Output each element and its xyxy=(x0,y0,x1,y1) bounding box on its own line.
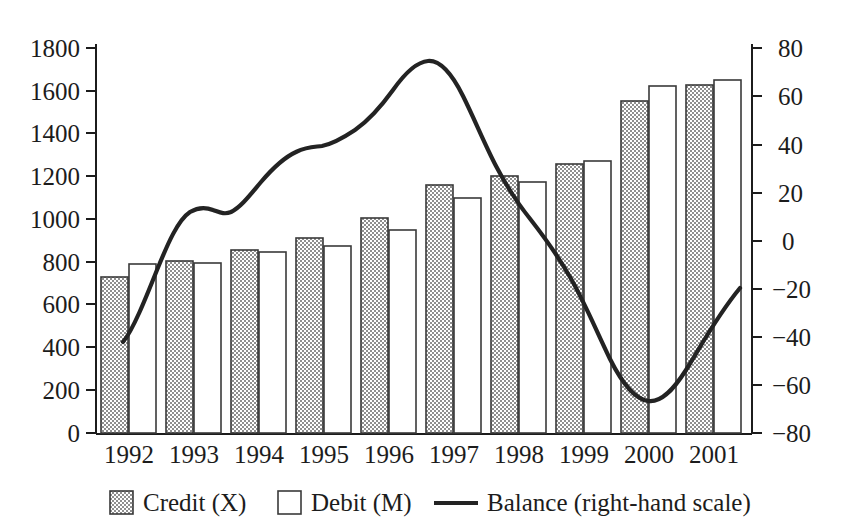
bar-debit-1996[interactable] xyxy=(389,230,416,433)
legend-item-credit[interactable]: Credit (X) xyxy=(110,489,246,517)
cat-label-1999: 1999 xyxy=(559,441,609,468)
left-tick-label-1800: 1800 xyxy=(30,35,80,62)
bar-credit-1993[interactable] xyxy=(166,261,193,433)
left-tick-label-1000: 1000 xyxy=(30,206,80,233)
legend-label-balance: Balance (right-hand scale) xyxy=(487,489,751,517)
cat-label-1996: 1996 xyxy=(364,441,414,468)
bar-debit-2000[interactable] xyxy=(649,86,676,433)
left-tick-label-600: 600 xyxy=(43,291,81,318)
left-tick-label-400: 400 xyxy=(43,334,81,361)
legend-label-debit: Debit (M) xyxy=(311,489,412,517)
cat-label-2001: 2001 xyxy=(689,441,739,468)
cat-label-2000: 2000 xyxy=(624,441,674,468)
right-tick-label-20: 20 xyxy=(778,180,803,207)
legend-item-debit[interactable]: Debit (M) xyxy=(278,489,412,517)
right-tick-label-0: 0 xyxy=(782,228,795,255)
left-tick-label-1200: 1200 xyxy=(30,163,80,190)
bar-debit-2001[interactable] xyxy=(714,80,741,433)
balance-of-trade-chart: 0 200 400 600 800 1000 1200 1400 1600 18… xyxy=(0,0,846,531)
bar-credit-1999[interactable] xyxy=(556,164,583,433)
right-tick-label-neg40: −40 xyxy=(772,324,811,351)
bar-credit-1996[interactable] xyxy=(361,218,388,433)
cat-label-1992: 1992 xyxy=(104,441,154,468)
left-tick-label-1600: 1600 xyxy=(30,78,80,105)
cat-label-1995: 1995 xyxy=(299,441,349,468)
right-tick-label-neg80: −80 xyxy=(772,420,811,447)
bar-credit-1997[interactable] xyxy=(426,185,453,433)
left-tick-label-800: 800 xyxy=(43,249,81,276)
bar-credit-1995[interactable] xyxy=(296,238,323,433)
bar-credit-1994[interactable] xyxy=(231,250,258,433)
chart-container: 0 200 400 600 800 1000 1200 1400 1600 18… xyxy=(0,0,846,531)
cat-label-1994: 1994 xyxy=(234,441,285,468)
bar-debit-1994[interactable] xyxy=(259,252,286,433)
bar-debit-1997[interactable] xyxy=(454,198,481,433)
bar-credit-1992[interactable] xyxy=(101,277,128,433)
legend-swatch-debit-icon xyxy=(278,491,301,514)
legend-swatch-credit-icon xyxy=(110,491,133,514)
cat-label-1997: 1997 xyxy=(429,441,479,468)
right-tick-label-neg60: −60 xyxy=(772,372,811,399)
bar-credit-1998[interactable] xyxy=(491,176,518,433)
bar-credit-2001[interactable] xyxy=(686,85,713,433)
cat-label-1993: 1993 xyxy=(169,441,219,468)
bar-debit-1999[interactable] xyxy=(584,161,611,433)
cat-label-1998: 1998 xyxy=(494,441,544,468)
left-tick-label-200: 200 xyxy=(43,377,81,404)
bar-debit-1995[interactable] xyxy=(324,246,351,433)
bar-debit-1993[interactable] xyxy=(194,263,221,433)
right-tick-label-80: 80 xyxy=(778,35,803,62)
left-tick-label-1400: 1400 xyxy=(30,120,80,147)
bar-debit-1992[interactable] xyxy=(129,264,156,433)
right-tick-label-60: 60 xyxy=(778,83,803,110)
right-tick-label-40: 40 xyxy=(778,132,803,159)
right-tick-label-neg20: −20 xyxy=(772,276,811,303)
left-tick-label-0: 0 xyxy=(68,420,81,447)
legend-label-credit: Credit (X) xyxy=(143,489,246,517)
